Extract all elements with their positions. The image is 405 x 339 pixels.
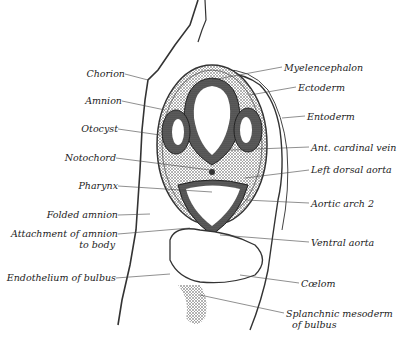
leader-lines	[0, 0, 405, 339]
